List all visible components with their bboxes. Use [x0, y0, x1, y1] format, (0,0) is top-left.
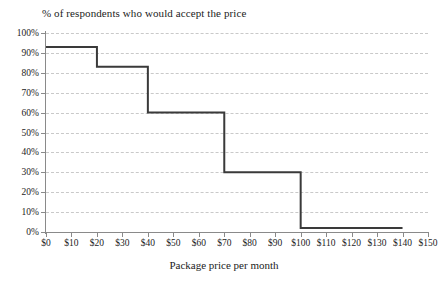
y-axis-label: 40%	[0, 147, 39, 157]
x-axis-tick	[275, 232, 276, 237]
x-axis-tick	[403, 232, 404, 237]
y-axis-label: 30%	[0, 167, 39, 177]
acceptance-step-line	[46, 47, 403, 228]
y-axis-tick	[41, 212, 46, 213]
y-axis-tick	[41, 73, 46, 74]
y-axis-label: 20%	[0, 187, 39, 197]
x-axis-tick	[352, 232, 353, 237]
x-axis-tick	[326, 232, 327, 237]
y-axis-label: 70%	[0, 88, 39, 98]
y-axis-tick	[41, 33, 46, 34]
y-axis-tick	[41, 172, 46, 173]
x-axis-tick	[97, 232, 98, 237]
x-axis-tick	[377, 232, 378, 237]
x-axis-tick	[122, 232, 123, 237]
gridline-y	[46, 172, 428, 173]
y-axis-tick	[41, 53, 46, 54]
x-axis-tick	[148, 232, 149, 237]
y-axis-label: 60%	[0, 108, 39, 118]
y-axis-label: 100%	[0, 28, 39, 38]
x-axis-tick	[250, 232, 251, 237]
x-axis-title: Package price per month	[0, 259, 448, 271]
x-axis-tick	[71, 232, 72, 237]
gridline-y	[46, 212, 428, 213]
gridline-y	[46, 53, 428, 54]
x-axis-tick	[46, 232, 47, 237]
x-axis-tick	[199, 232, 200, 237]
x-axis-tick	[428, 232, 429, 237]
y-axis-label: 80%	[0, 68, 39, 78]
y-axis-tick	[41, 113, 46, 114]
y-axis-tick	[41, 93, 46, 94]
y-axis-tick	[41, 192, 46, 193]
y-axis-tick	[41, 152, 46, 153]
gridline-y	[46, 152, 428, 153]
gridline-y	[46, 33, 428, 34]
chart-title: % of respondents who would accept the pr…	[42, 6, 246, 20]
chart-container: % of respondents who would accept the pr…	[0, 0, 448, 287]
x-axis-line	[45, 232, 429, 233]
y-axis-label: 0%	[0, 227, 39, 237]
y-axis-tick	[41, 133, 46, 134]
y-axis-label: 50%	[0, 128, 39, 138]
gridline-y	[46, 133, 428, 134]
gridline-y	[46, 93, 428, 94]
x-axis-label: $150	[408, 238, 448, 249]
gridline-y	[46, 192, 428, 193]
y-axis-label: 90%	[0, 48, 39, 58]
gridline-y	[46, 113, 428, 114]
gridline-y	[46, 73, 428, 74]
x-axis-tick	[173, 232, 174, 237]
x-axis-tick	[224, 232, 225, 237]
y-axis-label: 10%	[0, 207, 39, 217]
x-axis-tick	[301, 232, 302, 237]
